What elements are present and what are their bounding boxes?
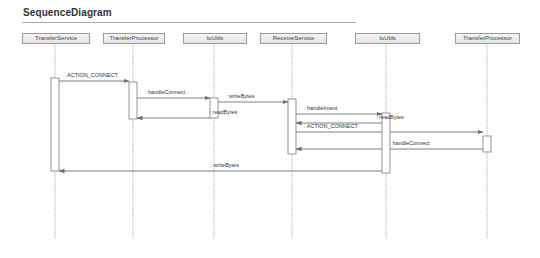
activation-box-0 bbox=[51, 78, 59, 171]
message-label-5: : readBytes bbox=[376, 114, 404, 120]
activation-box-2 bbox=[210, 98, 218, 118]
message-label-6: : ACTION_CONNECT bbox=[304, 123, 358, 129]
message-label-2: : readBytes bbox=[210, 109, 238, 115]
message-label-3: : writeBytes bbox=[226, 93, 255, 99]
message-label-8: : writeBytes bbox=[211, 162, 240, 168]
activation-box-1 bbox=[129, 82, 137, 119]
message-label-7: : handleConnect bbox=[390, 140, 431, 146]
activation-box-3 bbox=[288, 99, 296, 154]
message-label-4: : handleIntent bbox=[304, 105, 338, 111]
message-label-1: : handleConnect bbox=[145, 89, 186, 95]
message-label-0: ACTION_CONNECT bbox=[67, 72, 119, 78]
activation-box-5 bbox=[483, 136, 491, 152]
sequence-diagram-canvas: ACTION_CONNECT: handleConnect: readBytes… bbox=[0, 0, 540, 258]
